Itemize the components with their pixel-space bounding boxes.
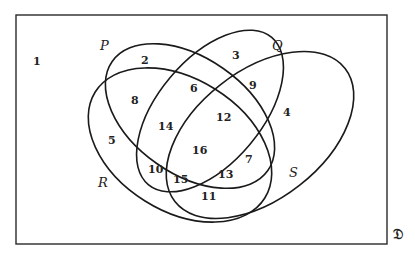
region-2-label: 2 <box>141 54 149 67</box>
set-s-label: S <box>289 165 298 180</box>
region-6-label: 6 <box>190 82 198 95</box>
set-p-label: P <box>99 38 109 53</box>
venn-diagram: P Q R S 1 2 3 4 5 6 7 8 9 10 11 12 13 14… <box>0 0 415 258</box>
universe-label: 𝔇 <box>393 226 403 242</box>
set-q-ellipse <box>108 4 311 218</box>
universe-frame <box>16 15 387 244</box>
region-10-label: 10 <box>148 163 164 176</box>
region-7-label: 7 <box>245 153 253 166</box>
region-9-label: 9 <box>249 79 257 92</box>
set-q-label: Q <box>272 38 283 53</box>
region-4-label: 4 <box>283 106 291 119</box>
region-12-label: 12 <box>216 111 231 124</box>
region-3-label: 3 <box>232 49 240 62</box>
region-8-label: 8 <box>131 94 139 107</box>
region-13-label: 13 <box>218 168 233 181</box>
region-1-label: 1 <box>33 55 41 68</box>
set-r-ellipse <box>60 36 300 254</box>
region-14-label: 14 <box>158 120 174 133</box>
venn-diagram-svg: P Q R S 1 2 3 4 5 6 7 8 9 10 11 12 13 14… <box>0 0 415 258</box>
region-16-label: 16 <box>192 144 208 157</box>
set-r-label: R <box>97 175 108 190</box>
region-5-label: 5 <box>108 134 116 147</box>
region-15-label: 15 <box>173 173 188 186</box>
region-11-label: 11 <box>201 190 216 203</box>
